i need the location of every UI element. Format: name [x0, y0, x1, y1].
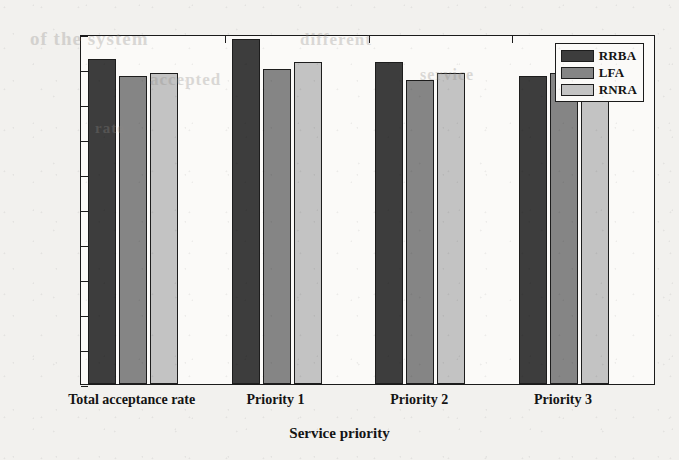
- scan-ghost-text: of the system: [30, 28, 149, 50]
- bar: [581, 76, 609, 384]
- x-tick-label: Priority 3: [534, 392, 592, 408]
- scan-ghost-text: accepted: [150, 70, 221, 90]
- legend-label: RNRA: [599, 83, 637, 96]
- x-axis-title: Service priority: [0, 425, 679, 442]
- legend-item: LFA: [561, 65, 637, 80]
- legend-label: LFA: [599, 66, 625, 79]
- x-tick-label: Priority 2: [390, 392, 448, 408]
- x-tick-label: Total acceptance rate: [68, 392, 195, 408]
- chart-legend: RRBALFARNRA: [555, 43, 644, 102]
- bar: [519, 76, 547, 384]
- scan-ghost-text: rate: [95, 120, 125, 137]
- bar: [375, 62, 403, 384]
- bar: [437, 73, 465, 385]
- bar: [88, 59, 116, 385]
- legend-swatch: [561, 50, 594, 62]
- x-tick-label: Priority 1: [247, 392, 305, 408]
- scan-ghost-text: service: [420, 66, 474, 84]
- legend-swatch: [561, 84, 594, 96]
- y-tick-mark: [81, 386, 88, 387]
- bar-chart: of the systemdifferentacceptedservicerat…: [0, 0, 679, 460]
- bar: [406, 80, 434, 385]
- bar: [294, 62, 322, 384]
- legend-label: RRBA: [599, 49, 637, 62]
- x-tick-mark: [225, 36, 226, 43]
- x-tick-mark: [512, 36, 513, 43]
- bar: [232, 39, 260, 384]
- bar: [263, 69, 291, 384]
- legend-item: RRBA: [561, 48, 637, 63]
- legend-item: RNRA: [561, 82, 637, 97]
- scan-ghost-text: different: [300, 30, 372, 50]
- legend-swatch: [561, 67, 594, 79]
- bar: [550, 73, 578, 385]
- bar: [150, 73, 178, 385]
